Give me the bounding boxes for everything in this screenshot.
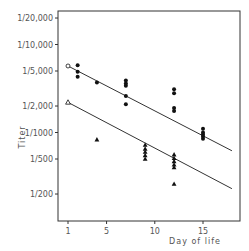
circle-marker xyxy=(95,81,99,85)
y-tick-label: 1/200 xyxy=(30,190,53,199)
regression-line xyxy=(68,66,232,151)
circle-marker xyxy=(201,127,205,131)
plot-frame xyxy=(58,11,240,221)
triangle-marker xyxy=(172,181,177,185)
open-circle-marker xyxy=(66,64,70,68)
titer-chart: 1/20,0001/10,0001/5,0001/2,0001/10001/50… xyxy=(0,0,249,251)
y-tick-label: 1/2,000 xyxy=(22,102,53,111)
y-axis-title: Titer xyxy=(18,125,27,149)
circle-marker xyxy=(172,91,176,95)
y-tick-label: 1/1000 xyxy=(25,129,53,138)
circle-marker xyxy=(124,84,128,88)
regression-line xyxy=(68,102,232,188)
x-tick-label: 10 xyxy=(150,227,160,236)
circle-marker xyxy=(124,102,128,106)
triangle-marker xyxy=(95,137,100,141)
circle-marker xyxy=(172,109,176,113)
circle-marker xyxy=(76,75,80,79)
circle-marker xyxy=(201,137,205,141)
y-tick-label: 1/5,000 xyxy=(22,67,53,76)
open-triangle-marker xyxy=(66,100,71,104)
triangle-marker xyxy=(143,142,148,146)
circle-marker xyxy=(124,94,128,98)
circle-marker xyxy=(172,87,176,91)
x-tick-label: 1 xyxy=(65,227,70,236)
data-points xyxy=(66,63,205,185)
circle-marker xyxy=(76,63,80,67)
x-tick-label: 15 xyxy=(198,227,208,236)
regression-lines xyxy=(68,66,232,189)
circle-marker xyxy=(76,70,80,74)
y-tick-label: 1/500 xyxy=(30,155,53,164)
x-axis-title: Day of life xyxy=(169,237,221,246)
y-tick-label: 1/20,000 xyxy=(17,14,53,23)
axes: 1/20,0001/10,0001/5,0001/2,0001/10001/50… xyxy=(17,11,240,236)
y-tick-label: 1/10,000 xyxy=(17,41,53,50)
x-tick-label: 5 xyxy=(104,227,109,236)
